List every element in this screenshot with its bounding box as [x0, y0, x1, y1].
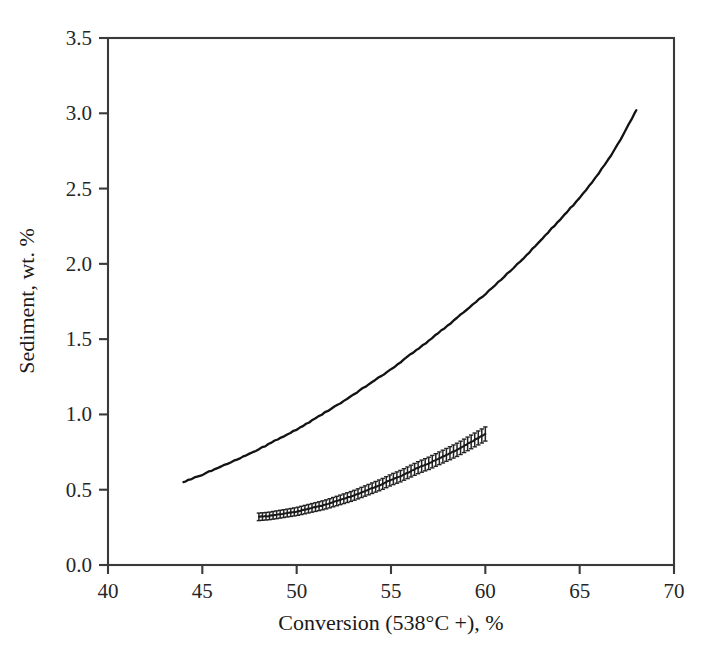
- x-axis-tick-labels: 40455055606570: [98, 579, 685, 603]
- x-axis-title: Conversion (538°C +), %: [278, 610, 503, 635]
- lower-series-error-bars: [257, 427, 488, 521]
- y-tick-label-2.0: 2.0: [66, 252, 92, 276]
- chart-canvas: 40455055606570 0.00.51.01.52.02.53.03.5 …: [0, 0, 716, 659]
- x-tick-label-60: 60: [475, 579, 496, 603]
- y-axis-tick-labels: 0.00.51.01.52.02.53.03.5: [66, 26, 92, 577]
- x-tick-label-70: 70: [664, 579, 685, 603]
- y-tick-label-3.5: 3.5: [66, 26, 92, 50]
- y-axis-ticks: [99, 38, 108, 565]
- y-tick-label-3.0: 3.0: [66, 101, 92, 125]
- chart-figure: 40455055606570 0.00.51.01.52.02.53.03.5 …: [0, 0, 716, 659]
- y-tick-label-1.0: 1.0: [66, 402, 92, 426]
- x-tick-label-45: 45: [192, 579, 213, 603]
- x-axis-ticks: [108, 565, 674, 574]
- y-axis-title: Sediment, wt. %: [14, 228, 39, 373]
- y-tick-label-0.5: 0.5: [66, 478, 92, 502]
- x-tick-label-40: 40: [98, 579, 119, 603]
- upper-series-line: [183, 110, 636, 482]
- y-tick-label-1.5: 1.5: [66, 327, 92, 351]
- x-tick-label-55: 55: [381, 579, 402, 603]
- y-tick-label-2.5: 2.5: [66, 177, 92, 201]
- x-tick-label-65: 65: [569, 579, 590, 603]
- y-tick-label-0.0: 0.0: [66, 553, 92, 577]
- x-tick-label-50: 50: [286, 579, 307, 603]
